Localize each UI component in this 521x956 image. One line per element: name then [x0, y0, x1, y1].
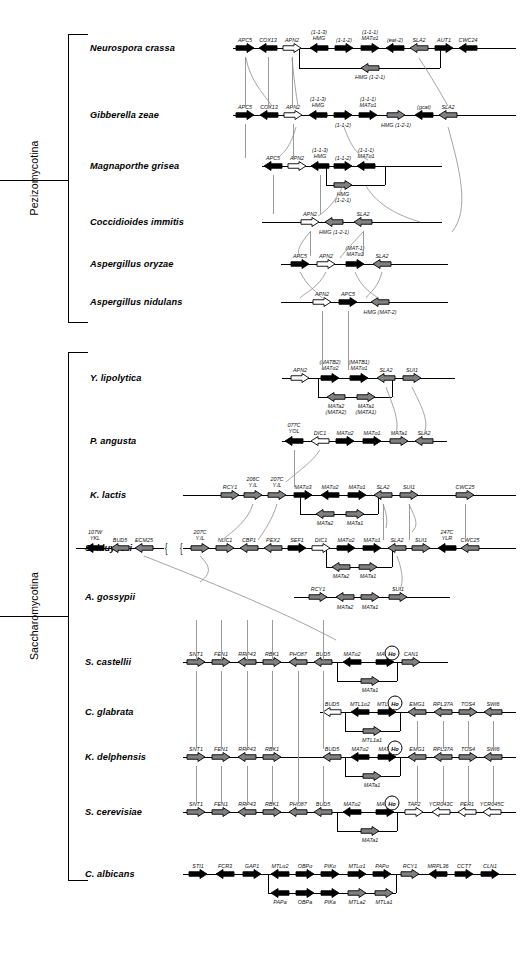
synteny-curve-group — [0, 0, 521, 956]
mat-locus-synteny-figure: PezizomycotinaSaccharomycotinaNeurospora… — [0, 0, 521, 956]
ho-endonuclease-icon: Ho — [385, 796, 400, 811]
ho-endonuclease-icon: Ho — [385, 646, 400, 661]
ho-endonuclease-icon: Ho — [388, 696, 403, 711]
ho-endonuclease-icon: Ho — [388, 741, 403, 756]
